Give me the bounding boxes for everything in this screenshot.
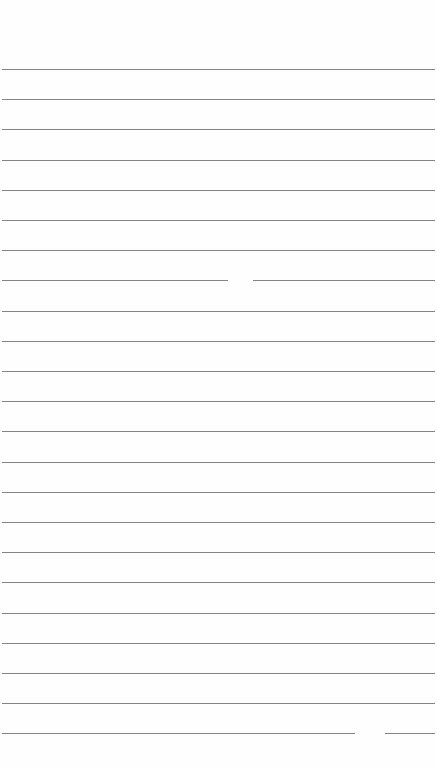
ruled-line — [2, 220, 435, 221]
lined-paper-page — [0, 0, 437, 768]
ruled-line — [2, 190, 435, 191]
ruled-line — [2, 673, 435, 674]
ruled-line — [2, 341, 435, 342]
ruled-line — [2, 99, 435, 100]
ruled-line — [2, 401, 435, 402]
ruled-line — [2, 462, 435, 463]
ruled-line — [2, 250, 435, 251]
ruled-line — [2, 552, 435, 553]
ruled-line — [2, 431, 435, 432]
ruled-line — [2, 280, 435, 281]
ruled-line — [2, 129, 435, 130]
ruled-line — [2, 522, 435, 523]
ruled-line — [2, 160, 435, 161]
line-gap — [355, 732, 385, 735]
line-gap — [228, 279, 253, 282]
ruled-line — [2, 613, 435, 614]
ruled-line — [2, 311, 435, 312]
ruled-line — [2, 703, 435, 704]
ruled-line — [2, 69, 435, 70]
ruled-line — [2, 371, 435, 372]
ruled-line — [2, 582, 435, 583]
ruled-line — [2, 643, 435, 644]
ruled-line — [2, 492, 435, 493]
